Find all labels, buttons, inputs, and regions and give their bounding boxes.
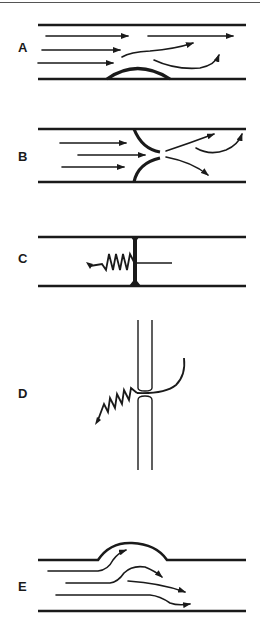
tube-gap-lower-edge xyxy=(138,396,152,400)
lower-constriction-lip xyxy=(134,158,160,182)
flow-arrow-recirculating xyxy=(66,567,162,583)
upper-constriction-lip xyxy=(134,129,160,152)
coil-element xyxy=(90,254,134,270)
jet-flow-arrow xyxy=(166,157,208,175)
diagram-canvas: A B C D xyxy=(0,0,260,617)
jet-flow-arrow xyxy=(166,134,214,151)
coil-element xyxy=(98,388,137,420)
hook-element xyxy=(137,358,184,393)
flow-arrow xyxy=(56,595,190,605)
panel-label-e: E xyxy=(18,579,27,594)
panel-b: B xyxy=(18,129,246,182)
panel-label-d: D xyxy=(18,386,27,401)
deflected-flow-arrow xyxy=(122,43,193,57)
panel-a: A xyxy=(18,25,246,79)
jet-flow-arrow xyxy=(196,134,242,153)
panel-label-b: B xyxy=(18,149,27,164)
deflected-flow-arrow xyxy=(154,55,219,68)
panel-label-c: C xyxy=(18,251,28,266)
coil-arrowhead xyxy=(86,262,93,269)
flow-arrow xyxy=(128,581,185,592)
mound-obstruction xyxy=(107,69,170,80)
panel-label-a: A xyxy=(18,40,28,55)
upper-wall-with-bulge xyxy=(38,543,246,560)
panel-c: C xyxy=(18,237,246,286)
tube-gap-upper-edge xyxy=(138,388,152,391)
panel-e: E xyxy=(18,543,246,611)
septum xyxy=(129,237,141,286)
panel-d: D xyxy=(18,320,184,470)
coil-arrowhead xyxy=(95,417,101,425)
